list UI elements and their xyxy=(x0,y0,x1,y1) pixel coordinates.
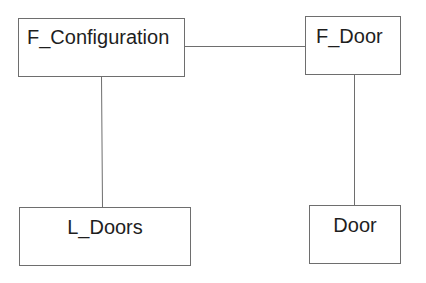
node-door[interactable]: Door xyxy=(309,205,401,264)
node-label: L_Doors xyxy=(20,216,190,239)
edge-fconfiguration-ldoors xyxy=(102,76,103,208)
node-f-door[interactable]: F_Door xyxy=(305,16,401,75)
node-label: F_Door xyxy=(316,25,400,48)
node-f-configuration[interactable]: F_Configuration xyxy=(18,18,185,77)
node-label: Door xyxy=(310,214,400,237)
diagram-canvas: F_Configuration F_Door L_Doors Door xyxy=(0,0,426,283)
node-label: F_Configuration xyxy=(27,26,184,49)
node-l-doors[interactable]: L_Doors xyxy=(19,207,191,266)
